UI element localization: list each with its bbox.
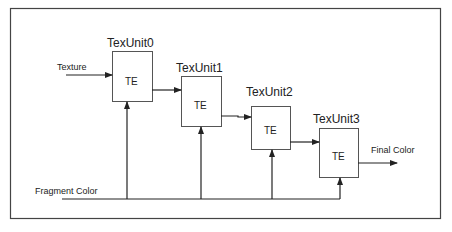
texunit0-title: TexUnit0 <box>107 36 154 50</box>
texunit2-body: TE <box>264 125 277 136</box>
texunit1-body: TE <box>194 100 207 111</box>
texture-label: Texture <box>57 62 87 72</box>
final-color-label: Final Color <box>371 145 415 155</box>
texture-pipeline-diagram: TexUnit0 TexUnit1 TexUnit2 TexUnit3 TE T… <box>0 0 452 232</box>
fragment-color-label: Fragment Color <box>35 186 98 196</box>
texunit1-title: TexUnit1 <box>176 61 223 75</box>
texunit3-body: TE <box>332 151 345 162</box>
texunit3-title: TexUnit3 <box>313 112 360 126</box>
texunit2-title: TexUnit2 <box>246 85 293 99</box>
texunit0-body: TE <box>125 76 138 87</box>
arrow-unit1-to-unit2 <box>221 116 251 117</box>
